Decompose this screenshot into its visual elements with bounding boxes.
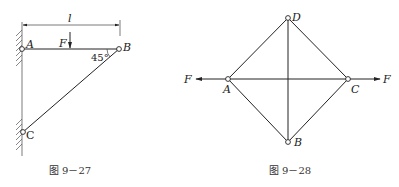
wall-hatching-lower: [16, 119, 22, 150]
angle-label: 45°: [91, 52, 109, 63]
node-c: [21, 130, 26, 135]
caption-9-28: 图 9－28: [269, 165, 311, 176]
force-label: F: [58, 37, 67, 50]
node-a: [226, 77, 231, 82]
force-label-left: F: [183, 73, 192, 86]
dimension-l: l: [23, 12, 120, 36]
node-b: [117, 47, 122, 52]
member-cb: [288, 79, 348, 142]
label-c: C: [26, 129, 34, 142]
caption-9-27: 图 9－27: [49, 165, 91, 176]
label-b: B: [293, 136, 302, 149]
node-d: [286, 16, 291, 21]
dimension-label: l: [68, 12, 72, 25]
node-b: [286, 140, 291, 145]
node-a: [20, 47, 25, 52]
node-c: [346, 77, 351, 82]
label-c: C: [351, 83, 360, 96]
label-b: B: [122, 41, 131, 54]
member-ad: [228, 18, 288, 79]
label-d: D: [291, 11, 301, 24]
diagram-canvas: l 45° F A B C 图 9－27 F F: [0, 0, 399, 187]
label-a: A: [25, 38, 34, 51]
member-dc: [288, 18, 348, 79]
figure-9-28: F F D A C B 图 9－28: [183, 11, 391, 176]
label-a: A: [222, 83, 231, 96]
member-ba: [228, 79, 288, 142]
figure-9-27: l 45° F A B C 图 9－27: [16, 12, 131, 176]
force-label-right: F: [382, 73, 391, 86]
